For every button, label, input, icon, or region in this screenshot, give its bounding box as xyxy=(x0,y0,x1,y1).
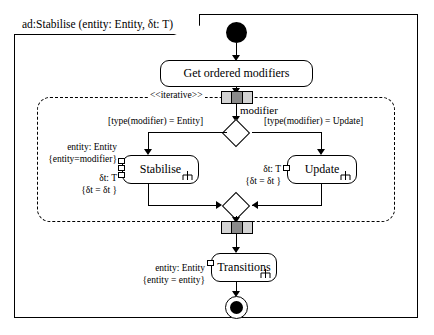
annotation-transitions-entity-binding: {entity = entity} xyxy=(113,275,205,287)
annotation-update-dt: δt: T {δt = δt } xyxy=(207,164,281,187)
action-stabilise[interactable]: Stabilise xyxy=(122,155,199,184)
action-get-ordered-modifiers-label: Get ordered modifiers xyxy=(184,66,290,82)
expansion-cell-1 xyxy=(222,92,232,103)
flow-stabilise-to-merge-h xyxy=(148,205,220,206)
expansion-cell-2 xyxy=(232,92,242,103)
call-behavior-rake-icon xyxy=(340,171,351,180)
expansion-region-stereotype: <<iterative>> xyxy=(148,90,205,100)
expansion-node-bottom xyxy=(221,221,253,234)
action-get-ordered-modifiers[interactable]: Get ordered modifiers xyxy=(160,60,313,87)
flow-update-to-merge-v xyxy=(321,184,322,206)
annotation-stabilise-entity: entity: Entity {entity=modifier} xyxy=(29,142,117,165)
initial-node xyxy=(226,22,247,43)
expansion-node-top xyxy=(221,91,253,104)
arrowhead-update-to-merge xyxy=(252,201,258,209)
action-transitions[interactable]: Transitions xyxy=(211,253,277,282)
flow-update-to-merge-h xyxy=(252,205,322,206)
annotation-update-dt-pin: δt: T xyxy=(207,164,281,176)
guard-entity-branch: [type(modifier) = Entity] xyxy=(108,116,203,126)
activity-final-node-core xyxy=(230,301,243,314)
annotation-stabilise-dt: δt: T {δt = δt } xyxy=(39,173,117,196)
activity-diagram-canvas: ad:Stabilise (entity: Entity, δt: T) <<i… xyxy=(0,0,434,335)
annotation-stabilise-entity-binding: {entity=modifier} xyxy=(29,154,117,166)
annotation-update-dt-binding: {δt = δt } xyxy=(207,176,281,188)
annotation-stabilise-entity-pin: entity: Entity xyxy=(29,142,117,154)
activity-frame-title: ad:Stabilise (entity: Entity, δt: T) xyxy=(14,14,200,35)
action-update-label: Update xyxy=(305,162,340,178)
activity-frame-title-label: ad:Stabilise (entity: Entity, δt: T) xyxy=(22,18,173,30)
input-pin-stabilise-1 xyxy=(118,158,125,164)
input-pin-stabilise-2 xyxy=(118,165,125,171)
input-pin-update-1 xyxy=(283,165,290,171)
guard-update-branch: [type(modifier) = Update] xyxy=(264,116,363,126)
annotation-transitions-entity-pin: entity: Entity xyxy=(113,263,205,275)
flow-decision-to-update-h xyxy=(252,132,322,133)
flow-decision-to-stabilise-h xyxy=(148,132,227,133)
call-behavior-rake-icon xyxy=(182,171,193,180)
expansion-cell-3 xyxy=(243,222,252,233)
annotation-stabilise-dt-binding: {δt = δt } xyxy=(39,185,117,197)
expansion-cell-1 xyxy=(222,222,232,233)
input-pin-stabilise-3 xyxy=(118,172,125,178)
action-stabilise-label: Stabilise xyxy=(140,162,181,178)
input-pin-transitions-1 xyxy=(207,260,214,266)
action-update[interactable]: Update xyxy=(287,155,357,184)
annotation-stabilise-dt-pin: δt: T xyxy=(39,173,117,185)
expansion-cell-2 xyxy=(232,222,242,233)
expansion-cell-3 xyxy=(243,92,252,103)
flow-stabilise-to-merge-v xyxy=(148,184,149,206)
flow-label-modifier: modifier xyxy=(240,104,278,116)
annotation-transitions-entity: entity: Entity {entity = entity} xyxy=(113,263,205,286)
call-behavior-rake-icon xyxy=(260,269,271,278)
